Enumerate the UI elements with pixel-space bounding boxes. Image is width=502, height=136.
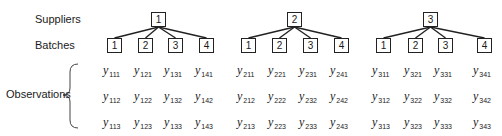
observation-subscript: 232 — [305, 97, 317, 104]
observation-subscript: 121 — [140, 71, 152, 78]
observation-cell: y221 — [268, 63, 286, 78]
observation-symbol: y — [404, 89, 409, 103]
observation-symbol: y — [103, 115, 108, 129]
observation-symbol: y — [434, 89, 439, 103]
batches-label: Batches — [35, 39, 75, 51]
observation-symbol: y — [299, 115, 304, 129]
observation-subscript: 311 — [378, 71, 389, 78]
observation-cell: y121 — [134, 63, 152, 78]
observation-subscript: 322 — [410, 97, 422, 104]
observation-symbol: y — [164, 63, 169, 77]
observation-subscript: 333 — [440, 123, 452, 130]
observation-symbol: y — [134, 63, 139, 77]
batch-node-2-3: 3 — [303, 38, 318, 53]
observation-symbol: y — [268, 89, 273, 103]
observation-cell: y333 — [434, 115, 452, 130]
observation-symbol: y — [473, 89, 478, 103]
observation-symbol: y — [103, 63, 108, 77]
observation-subscript: 231 — [305, 71, 317, 78]
observation-symbol: y — [103, 89, 108, 103]
observation-symbol: y — [434, 63, 439, 77]
supplier-node-1: 1 — [151, 12, 166, 27]
batch-node-2-2: 2 — [272, 38, 287, 53]
observation-cell: y133 — [164, 115, 182, 130]
observation-symbol: y — [195, 115, 200, 129]
observation-subscript: 142 — [201, 97, 213, 104]
observation-subscript: 321 — [410, 71, 422, 78]
observation-subscript: 221 — [274, 71, 286, 78]
observation-cell: y312 — [372, 89, 390, 104]
observations-label: Observations — [6, 88, 71, 100]
observation-cell: y341 — [473, 63, 491, 78]
observation-symbol: y — [195, 63, 200, 77]
observation-cell: y342 — [473, 89, 491, 104]
observation-symbol: y — [195, 89, 200, 103]
observation-cell: y213 — [237, 115, 255, 130]
observation-cell: y232 — [299, 89, 317, 104]
observation-cell: y122 — [134, 89, 152, 104]
observation-subscript: 341 — [479, 71, 491, 78]
observation-subscript: 342 — [479, 97, 491, 104]
observation-subscript: 111 — [109, 71, 120, 78]
observation-cell: y111 — [103, 63, 120, 78]
observation-symbol: y — [372, 63, 377, 77]
observation-subscript: 331 — [440, 71, 452, 78]
observation-subscript: 312 — [378, 97, 390, 104]
observation-symbol: y — [473, 63, 478, 77]
observation-subscript: 112 — [109, 97, 120, 104]
observation-symbol: y — [134, 115, 139, 129]
observation-symbol: y — [237, 89, 242, 103]
observation-subscript: 241 — [336, 71, 348, 78]
observation-cell: y332 — [434, 89, 452, 104]
observation-cell: y113 — [103, 115, 121, 130]
batch-node-1-2: 2 — [138, 38, 153, 53]
observation-subscript: 223 — [274, 123, 286, 130]
observation-cell: y233 — [299, 115, 317, 130]
observation-cell: y132 — [164, 89, 182, 104]
suppliers-label: Suppliers — [35, 13, 81, 25]
observation-symbol: y — [372, 115, 377, 129]
observation-symbol: y — [299, 89, 304, 103]
observation-symbol: y — [237, 115, 242, 129]
observation-subscript: 243 — [336, 123, 348, 130]
observation-cell: y222 — [268, 89, 286, 104]
observation-cell: y212 — [237, 89, 255, 104]
batch-node-3-3: 3 — [438, 38, 453, 53]
observation-symbol: y — [299, 63, 304, 77]
observation-subscript: 313 — [378, 123, 390, 130]
observation-subscript: 332 — [440, 97, 452, 104]
observation-symbol: y — [134, 89, 139, 103]
observation-symbol: y — [404, 115, 409, 129]
batch-node-3-1: 1 — [376, 38, 391, 53]
observation-cell: y142 — [195, 89, 213, 104]
batch-node-1-3: 3 — [168, 38, 183, 53]
observation-symbol: y — [372, 89, 377, 103]
observation-cell: y343 — [473, 115, 491, 130]
observation-subscript: 233 — [305, 123, 317, 130]
batch-node-1-1: 1 — [107, 38, 122, 53]
observation-subscript: 141 — [201, 71, 213, 78]
observation-symbol: y — [268, 115, 273, 129]
observation-symbol: y — [237, 63, 242, 77]
observation-symbol: y — [164, 89, 169, 103]
batch-node-2-4: 4 — [334, 38, 349, 53]
observation-symbol: y — [330, 115, 335, 129]
observation-cell: y211 — [237, 63, 255, 78]
observation-cell: y241 — [330, 63, 348, 78]
batch-node-3-2: 2 — [408, 38, 423, 53]
observation-cell: y323 — [404, 115, 422, 130]
observation-symbol: y — [268, 63, 273, 77]
observation-cell: y311 — [372, 63, 390, 78]
observation-subscript: 123 — [140, 123, 152, 130]
observation-cell: y131 — [164, 63, 182, 78]
observation-cell: y223 — [268, 115, 286, 130]
observation-cell: y143 — [195, 115, 213, 130]
observation-cell: y231 — [299, 63, 317, 78]
supplier-node-2: 2 — [287, 12, 302, 27]
observation-subscript: 211 — [243, 71, 254, 78]
observation-subscript: 323 — [410, 123, 422, 130]
connector-line — [159, 27, 207, 38]
observation-subscript: 122 — [140, 97, 152, 104]
observation-subscript: 213 — [243, 123, 255, 130]
observation-symbol: y — [404, 63, 409, 77]
